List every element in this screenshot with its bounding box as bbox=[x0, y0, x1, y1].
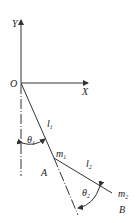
link-1-label: l1 bbox=[47, 118, 53, 130]
double-pendulum-diagram: Y X O l1 θ1 m1 A l2 θ2 m2 B bbox=[0, 0, 137, 223]
theta2-label: θ2 bbox=[82, 187, 90, 199]
link-2-label: l2 bbox=[86, 158, 92, 170]
origin-label: O bbox=[10, 78, 17, 89]
joint-b-label: B bbox=[119, 204, 125, 215]
mass-1-label: m1 bbox=[56, 148, 66, 160]
x-axis-label: X bbox=[81, 86, 89, 97]
link-1-extension bbox=[54, 158, 78, 215]
theta1-label: θ1 bbox=[27, 134, 35, 146]
y-axis-label: Y bbox=[12, 18, 19, 29]
joint-a-label: A bbox=[40, 167, 48, 178]
mass-2-label: m2 bbox=[118, 188, 128, 200]
